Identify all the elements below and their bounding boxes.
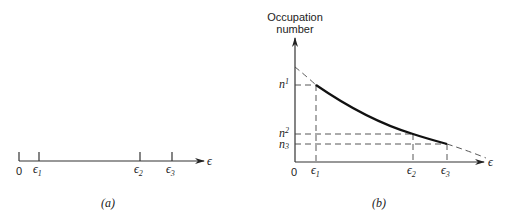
y-axis-label-line2: number [276,23,314,35]
axis-label-a: ϵ [207,154,213,168]
curve-extrapolation-right [447,144,486,158]
occupation-curve [316,85,447,144]
curve-extrapolation-left [295,67,316,85]
tick-label-0-a: 0 [16,165,22,177]
y-axis-label-line1: Occupation [267,11,323,23]
x-axis-label-b: ϵ [488,155,494,169]
diagram-canvas: 0 ϵ1 ϵ2 ϵ3 ϵ (a) Occupation number n1 n2… [0,0,506,220]
tick-label-e1-a: ϵ1 [33,162,42,178]
caption-a: (a) [101,196,115,210]
tick-label-e2-a: ϵ2 [134,162,143,178]
panel-b: Occupation number n1 n2 n3 0 ϵ1 ϵ2 ϵ3 ϵ … [267,11,494,210]
y-tick-n1: n1 [279,77,289,91]
x-tick-origin: 0 [291,166,297,178]
x-tick-e1: ϵ1 [311,163,320,179]
tick-label-e3-a: ϵ3 [166,162,175,178]
panel-a: 0 ϵ1 ϵ2 ϵ3 ϵ (a) [16,152,213,210]
caption-b: (b) [372,196,386,210]
x-tick-e2: ϵ2 [407,163,416,179]
y-tick-n3: n3 [279,137,289,151]
x-tick-e3: ϵ3 [441,163,450,179]
